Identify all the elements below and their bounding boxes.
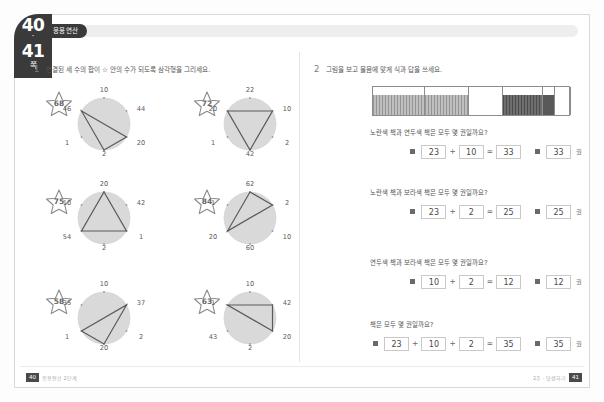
answer-unit: 권 <box>576 339 582 348</box>
circle-6-number: 10 <box>240 280 260 288</box>
circle-5-number: 20 <box>94 344 114 352</box>
operator-equals: = <box>487 339 493 348</box>
circle-6-number: 1 <box>203 299 223 307</box>
circle-5-number: 10 <box>94 280 114 288</box>
problem-1-instruction: 연결된 세 수의 합이 ☆ 안의 수가 되도록 삼각형을 그리세요. <box>46 66 211 74</box>
problem-1-heading: 1 연결된 세 수의 합이 ☆ 안의 수가 되도록 삼각형을 그리세요. <box>34 64 210 74</box>
operator-plus: + <box>449 207 455 216</box>
answer-marker-icon <box>535 341 540 346</box>
equation-value-box[interactable]: 23 <box>421 205 446 219</box>
star-target-2: 72 <box>192 90 222 118</box>
equation-value-box[interactable]: 33 <box>496 145 521 159</box>
number-circle-1[interactable] <box>74 94 134 154</box>
equation-value-box[interactable]: 2 <box>459 275 484 289</box>
circle-2-number: 1 <box>203 139 223 147</box>
answer-value-box[interactable]: 25 <box>546 205 571 219</box>
circle-2-number: 42 <box>240 150 260 158</box>
bar-segment-green-books <box>503 87 543 115</box>
circle-2-number: 22 <box>240 86 260 94</box>
circle-1-number: 44 <box>131 105 151 113</box>
circle-4-number: 62 <box>240 180 260 188</box>
equation-value-box[interactable]: 10 <box>459 145 484 159</box>
equation-value-box[interactable]: 10 <box>421 337 446 351</box>
circle-5-number: 1 <box>57 333 77 341</box>
footer-page-left: 40 <box>26 373 39 382</box>
equation-value-box[interactable]: 23 <box>421 145 446 159</box>
answer-value-box[interactable]: 12 <box>546 275 571 289</box>
answer-row: 23+2=2525권 <box>352 204 584 219</box>
circle-1-number: 1 <box>57 139 77 147</box>
equation-value-box[interactable]: 2 <box>459 337 484 351</box>
circle-2-number: 2 <box>277 139 297 147</box>
answer-value-box[interactable]: 33 <box>546 145 571 159</box>
bar-segment-yellow-books-a <box>373 87 425 115</box>
question-text: 연두색 책과 보라색 책은 모두 몇 권일까요? <box>370 258 584 267</box>
answer-value-box[interactable]: 35 <box>546 337 571 351</box>
question-4: 책은 모두 몇 권일까요?23+10+2=3535권 <box>352 320 584 351</box>
equation-marker-icon <box>373 341 378 346</box>
bar-segment-empty-a <box>469 87 503 115</box>
circle-1-number: 10 <box>94 86 114 94</box>
operator-plus: + <box>449 339 455 348</box>
equation-value-box[interactable]: 12 <box>496 275 521 289</box>
number-circle-2[interactable] <box>220 94 280 154</box>
circle-1-number: 2 <box>94 150 114 158</box>
operator-plus: + <box>412 339 418 348</box>
equation-marker-icon <box>410 209 415 214</box>
equation-value-box[interactable]: 2 <box>459 205 484 219</box>
answer-row: 23+10+2=3535권 <box>352 336 584 351</box>
answer-unit: 권 <box>576 277 582 286</box>
answer-marker-icon <box>535 279 540 284</box>
operator-equals: = <box>487 277 493 286</box>
bar-fill <box>373 95 424 115</box>
equation-value-box[interactable]: 25 <box>496 205 521 219</box>
operator-plus: + <box>449 147 455 156</box>
number-circle-6[interactable] <box>220 288 280 348</box>
circle-6-number: 20 <box>277 333 297 341</box>
answer-marker-icon <box>535 149 540 154</box>
number-circle-3[interactable] <box>74 188 134 248</box>
circle-3-number: 20 <box>94 180 114 188</box>
circle-4-number: 20 <box>203 233 223 241</box>
circle-4-number: 10 <box>277 233 297 241</box>
column-divider <box>299 52 300 362</box>
bar-segment-purple-books <box>543 87 555 115</box>
book-bar-diagram <box>372 86 570 116</box>
problem-1-number: 1 <box>34 64 39 74</box>
problem-2-number: 2 <box>314 64 319 74</box>
star-target-1: 68 <box>44 90 74 118</box>
circle-2-number: 10 <box>277 105 297 113</box>
question-1: 노란색 책과 연두색 책은 모두 몇 권일까요?23+10=3333권 <box>352 128 584 159</box>
footer-divider <box>20 366 584 367</box>
answer-row: 23+10=3333권 <box>352 144 584 159</box>
bar-fill <box>543 95 554 115</box>
footer-left: 40 응용연산 2단계 <box>26 373 77 382</box>
circle-3-number: 42 <box>131 199 151 207</box>
circle-2-number: 20 <box>203 105 223 113</box>
circle-1-number: 20 <box>131 139 151 147</box>
equation-value-box[interactable]: 10 <box>421 275 446 289</box>
circle-4-number: 60 <box>240 244 260 252</box>
bar-segment-empty-b <box>555 87 571 115</box>
circle-3-number: 1 <box>131 233 151 241</box>
operator-equals: = <box>487 147 493 156</box>
circle-6-number: 2 <box>240 344 260 352</box>
number-circle-5[interactable] <box>74 288 134 348</box>
bar-segment-yellow-books-b <box>425 87 469 115</box>
equation-marker-icon <box>410 279 415 284</box>
circle-5-number: 35 <box>57 299 77 307</box>
footer-page-right: 41 <box>569 373 582 382</box>
footer-right: 2주 · 덧셈하기 41 <box>533 373 582 382</box>
circle-5-number: 2 <box>131 333 151 341</box>
circle-1-number: 46 <box>57 105 77 113</box>
number-circle-4[interactable] <box>220 188 280 248</box>
circle-4-number: 2 <box>277 199 297 207</box>
header-bar <box>56 25 578 37</box>
question-text: 노란색 책과 보라색 책은 모두 몇 권일까요? <box>370 188 584 197</box>
workbook-page: 40 · 41 쪽 응용연산 1 연결된 세 수의 합이 ☆ 안의 수가 되도록… <box>0 0 604 402</box>
bar-fill <box>503 95 542 115</box>
equation-marker-icon <box>410 149 415 154</box>
answer-unit: 권 <box>576 207 582 216</box>
equation-value-box[interactable]: 23 <box>384 337 409 351</box>
equation-value-box[interactable]: 35 <box>496 337 521 351</box>
